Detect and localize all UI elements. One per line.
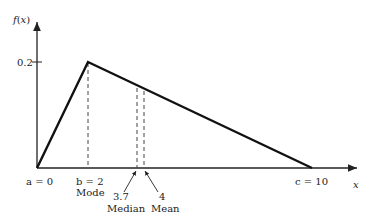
triangular-density-plot: f(x) 0.2 x a = 0 b = 2 Mode 3.7 Median 4… [0,0,379,220]
density-curve [37,62,312,168]
y-tick-label: 0.2 [17,57,33,68]
y-axis-label: f(x) [12,14,30,25]
median-arrow [124,171,136,192]
label-b: b = 2 [76,176,104,187]
label-mode: Mode [76,187,105,198]
label-mean: Mean [151,203,180,214]
mean-arrow [145,171,158,192]
x-axis-label: x [353,179,359,190]
chart: f(x) 0.2 x a = 0 b = 2 Mode 3.7 Median 4… [0,0,379,220]
label-median: Median [107,203,146,214]
label-median-value: 3.7 [113,191,129,202]
label-a: a = 0 [26,176,53,187]
label-c: c = 10 [295,176,328,187]
label-mean-value: 4 [159,191,165,202]
